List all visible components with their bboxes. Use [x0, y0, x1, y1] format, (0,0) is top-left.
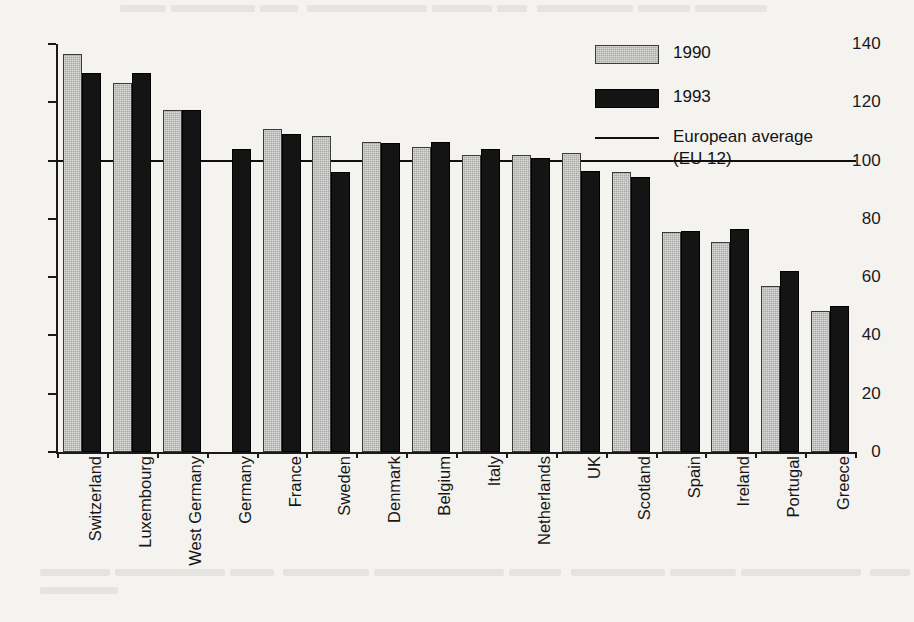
- y-tick-40: [48, 334, 56, 336]
- bar-1990: [163, 110, 182, 452]
- x-label-belgium: Belgium: [436, 456, 453, 622]
- bar-group: [312, 44, 350, 452]
- x-label-portugal: Portugal: [785, 456, 802, 622]
- legend-swatch-1990: [595, 45, 659, 64]
- x-label-germany: Germany: [237, 456, 254, 622]
- bar-1990: [63, 54, 82, 452]
- bar-group: [113, 44, 151, 452]
- x-label-italy: Italy: [486, 456, 503, 622]
- bar-1990: [811, 311, 830, 452]
- bar-1993: [481, 149, 500, 452]
- x-label-spain: Spain: [686, 456, 703, 622]
- x-label-denmark: Denmark: [386, 456, 403, 622]
- bar-1990: [263, 129, 282, 452]
- bar-1993: [331, 172, 350, 452]
- bar-1993: [132, 73, 151, 452]
- legend-label-european-average-sub: (EU 12): [673, 148, 813, 170]
- x-label-luxembourg: Luxembourg: [137, 456, 154, 622]
- legend-item-european-average: European average (EU 12): [595, 124, 881, 168]
- bar-1993: [232, 149, 251, 452]
- bar-1990: [761, 286, 780, 452]
- y-tick-80: [48, 218, 56, 220]
- bar-1993: [282, 134, 301, 452]
- bar-1990: [412, 147, 431, 452]
- bar-1993: [82, 73, 101, 452]
- y-tick-60: [48, 276, 56, 278]
- legend-swatch-line: [595, 137, 659, 139]
- x-label-netherlands: Netherlands: [536, 456, 553, 622]
- x-label-west-germany: West Germany: [187, 456, 204, 622]
- legend-item-1990: 1990: [595, 40, 881, 84]
- bar-1990: [662, 232, 681, 452]
- y-tick-120: [48, 101, 56, 103]
- bar-group: [412, 44, 450, 452]
- x-label-greece: Greece: [835, 456, 852, 622]
- bar-group: [213, 44, 251, 452]
- x-label-uk: UK: [586, 456, 603, 622]
- bar-1993: [780, 271, 799, 452]
- legend-label-european-average-main: European average: [673, 127, 813, 146]
- y-tick-20: [48, 393, 56, 395]
- bar-1990: [612, 172, 631, 452]
- bar-1990: [312, 136, 331, 452]
- bar-1990: [562, 153, 581, 452]
- bar-group: [263, 44, 301, 452]
- legend-swatch-1993: [595, 89, 659, 108]
- legend-label-1990: 1990: [673, 42, 711, 64]
- bar-1993: [182, 110, 201, 452]
- bar-group: [512, 44, 550, 452]
- x-label-sweden: Sweden: [336, 456, 353, 622]
- x-label-scotland: Scotland: [636, 456, 653, 622]
- bar-1993: [631, 177, 650, 452]
- x-label-ireland: Ireland: [735, 456, 752, 622]
- bar-group: [63, 44, 101, 452]
- x-axis-category-labels: SwitzerlandLuxembourgWest GermanyGermany…: [58, 456, 856, 622]
- y-tick-0: [48, 451, 56, 453]
- bar-1990: [113, 83, 132, 452]
- bar-1993: [830, 306, 849, 452]
- bar-group: [362, 44, 400, 452]
- bar-1993: [730, 229, 749, 452]
- bar-group: [462, 44, 500, 452]
- legend-label-european-average: European average (EU 12): [673, 126, 813, 170]
- bar-1990: [362, 142, 381, 452]
- bar-1993: [381, 143, 400, 452]
- chart-legend: 1990 1993 European average (EU 12): [595, 40, 881, 168]
- y-tick-140: [48, 43, 56, 45]
- bar-1993: [681, 231, 700, 452]
- bar-group: [163, 44, 201, 452]
- y-tick-100: [48, 160, 56, 162]
- bar-1993: [531, 158, 550, 452]
- bar-1993: [431, 142, 450, 452]
- legend-item-1993: 1993: [595, 84, 881, 124]
- bar-1990: [711, 242, 730, 452]
- legend-label-1993: 1993: [673, 86, 711, 108]
- bar-1990: [512, 155, 531, 452]
- x-label-france: France: [287, 456, 304, 622]
- bar-1993: [581, 171, 600, 452]
- bar-1990: [462, 155, 481, 452]
- x-label-switzerland: Switzerland: [87, 456, 104, 622]
